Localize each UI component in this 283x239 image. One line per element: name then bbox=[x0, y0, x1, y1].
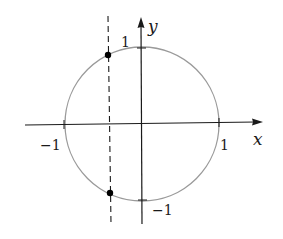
upper-intersection-point bbox=[105, 52, 111, 58]
unit-circle-diagram: y x 1 −1 1 −1 bbox=[0, 0, 283, 239]
y-tick-neg-label: −1 bbox=[152, 202, 173, 218]
x-axis bbox=[25, 122, 256, 125]
x-tick-neg-label: −1 bbox=[40, 137, 61, 153]
y-axis-label: y bbox=[147, 16, 158, 36]
x-tick-pos-label: 1 bbox=[220, 137, 229, 153]
lower-intersection-point bbox=[107, 190, 113, 196]
x-axis-label: x bbox=[253, 129, 263, 149]
y-axis bbox=[141, 24, 142, 224]
y-tick-pos-label: 1 bbox=[121, 34, 130, 50]
x-axis-arrow-icon bbox=[252, 119, 263, 126]
y-axis-arrow-icon bbox=[138, 17, 145, 28]
